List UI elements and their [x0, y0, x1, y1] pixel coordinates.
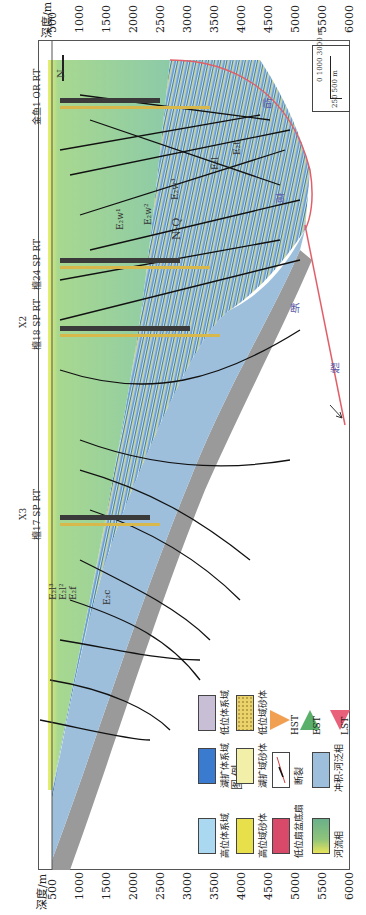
legend-swatch-hst-sand: [236, 818, 254, 854]
legend-swatch-basin-floor-fan: [272, 818, 290, 854]
legend-swatch-fault: [272, 752, 290, 788]
hst-triangle-icon: [270, 710, 290, 730]
label-e2l3: E₂l³: [48, 583, 58, 600]
legend-label: 高位体系域: [218, 813, 231, 858]
fault-char-3: 断: [290, 300, 300, 315]
legend-st-label: LST: [340, 717, 350, 735]
label-e2t: E₂t: [232, 141, 242, 155]
legend-label: 低位扇盆底扇: [292, 804, 305, 858]
well-label-tan24: 檀24 SP RT: [30, 239, 43, 290]
legend-swatch-alluvial: [312, 752, 330, 788]
legend-label: 湖扩体系域: [218, 743, 231, 788]
legend-label: 湖扩域砂体: [256, 743, 269, 788]
legend-swatch-lst-sand: [236, 695, 254, 731]
legend-label: 冲积-河泛相: [332, 744, 345, 792]
label-e2l: E₂l: [210, 157, 220, 170]
north-label: N: [55, 69, 66, 78]
fault-char-4: 裂: [330, 360, 340, 375]
label-e2l2: E₂l²: [58, 583, 68, 600]
well-label-tan17: 檀17 SP RT: [30, 489, 43, 540]
lingao-fault-line: [305, 225, 345, 425]
legend-swatch-lst-system: [198, 695, 216, 731]
well-marker-x2: X2: [18, 316, 28, 328]
scale-horizontal: 0 1000 3000 m: [316, 29, 324, 82]
fault-char-2: 高: [275, 190, 285, 205]
fault-char-1: 临: [262, 95, 272, 110]
well-label-jinyu1: 金鱼1 OR RT: [30, 69, 43, 125]
label-e2w3: E₂w³: [170, 179, 180, 201]
label-e2c: E₂c: [102, 590, 112, 605]
legend-label: 高位域砂体: [256, 813, 269, 858]
legend-label: 低位体系域: [218, 690, 231, 735]
legend-swatch-fluvial: [312, 818, 330, 854]
legend-st-label: HST: [290, 715, 300, 735]
legend-swatch-hst-system: [198, 818, 216, 854]
legend-swatch-est-sand: [236, 748, 254, 784]
label-e2w2: E₂w²: [143, 204, 153, 226]
well-marker-x3: X3: [18, 508, 28, 520]
legend-label: 河流相: [332, 831, 345, 858]
legend-label: 断裂: [292, 767, 305, 785]
well-label-tan18: 檀18 SP RT: [30, 299, 43, 350]
legend-st-label: EST: [312, 716, 322, 735]
legend-label: 低位域砂体: [256, 690, 269, 735]
label-e2f: E₂f: [68, 586, 78, 600]
label-e2w1: E₂w¹: [115, 209, 125, 231]
label-nq: N-Q: [170, 218, 183, 240]
scale-vertical: 250 500 m: [331, 70, 339, 108]
legend-swatch-est-system: [198, 748, 216, 784]
